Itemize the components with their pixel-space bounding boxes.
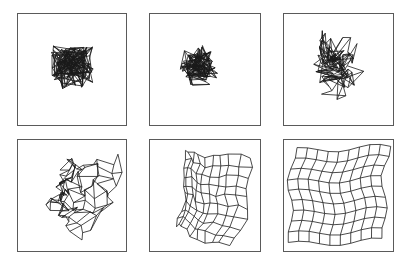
panel-stage-5 [149,139,261,252]
mesh-lines [51,46,93,89]
panel-stage-3 [283,13,394,126]
panel-stage-4 [17,139,127,252]
mesh-plot [284,140,393,251]
mesh-lines [287,144,390,245]
mesh-plot [284,14,393,125]
mesh-lines [314,31,364,100]
mesh-plot [150,14,260,125]
panel-stage-1 [17,13,127,126]
mesh-lines [46,154,122,240]
mesh-plot [18,140,126,251]
panel-stage-2 [149,13,261,126]
panel-stage-6 [283,139,394,252]
mesh-plot [18,14,126,125]
mesh-plot [150,140,260,251]
mesh-lines [177,150,253,245]
mesh-lines [180,46,217,86]
